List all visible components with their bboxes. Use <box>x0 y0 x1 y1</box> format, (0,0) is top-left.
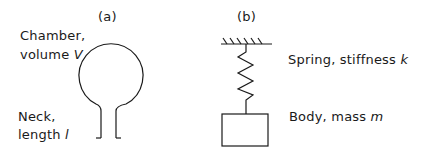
chamber-bulb <box>79 44 143 138</box>
helmholtz-resonator <box>79 44 143 138</box>
panel-b-label: (b) <box>237 10 256 24</box>
spring-coil <box>238 44 253 114</box>
neck-length-text: length <box>18 127 61 142</box>
spring-stiffness-text: Spring, stiffness <box>288 52 396 67</box>
body-mass-box <box>222 114 268 146</box>
spring-label: Spring, stiffness k <box>288 53 408 67</box>
spring-stiffness-symbol: k <box>400 52 408 67</box>
body-label: Body, mass m <box>289 110 383 124</box>
neck-label-line1: Neck, <box>18 110 56 124</box>
body-mass-symbol: m <box>371 109 384 124</box>
mass-spring-system <box>221 38 272 146</box>
panel-a-label: (a) <box>98 10 117 24</box>
ceiling-hatching <box>223 38 262 44</box>
chamber-volume-text: volume <box>20 47 69 62</box>
chamber-label-line1: Chamber, <box>20 29 85 43</box>
body-mass-text: Body, mass <box>289 109 366 124</box>
chamber-label-line2: volume V <box>20 48 83 62</box>
chamber-volume-symbol: V <box>74 47 83 62</box>
neck-label-line2: length l <box>18 128 69 142</box>
neck-length-symbol: l <box>65 127 69 142</box>
